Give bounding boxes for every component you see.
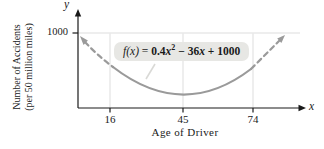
y-axis-title-line2: (per 50 million miles) xyxy=(23,12,35,122)
curve-solid-middle xyxy=(113,67,251,95)
function-formula-box: f(x) = 0.4x2 − 36x + 1000 xyxy=(114,42,249,61)
y-tick-label-1000: 1000 xyxy=(36,26,68,37)
x-axis-arrow xyxy=(299,105,307,111)
y-axis-title: Number of Accidents (per 50 million mile… xyxy=(11,12,39,122)
formula-equals: = xyxy=(139,45,151,57)
accidents-vs-age-chart: y x Number of Accidents (per 50 million … xyxy=(0,0,324,149)
y-axis-letter: y xyxy=(64,0,69,10)
y-axis-arrow xyxy=(75,9,81,17)
y-axis-title-line1: Number of Accidents xyxy=(11,12,23,122)
x-axis-letter: x xyxy=(309,100,314,112)
x-tick-label-45: 45 xyxy=(168,113,198,125)
x-axis-title: Age of Driver xyxy=(118,126,252,138)
curve-dashed-right xyxy=(251,40,280,69)
formula-coefficient: 0.4 xyxy=(151,45,165,57)
formula-callout-line xyxy=(146,64,155,79)
curve-dashed-left xyxy=(85,42,113,67)
x-tick-label-16: 16 xyxy=(95,113,125,125)
formula-constant: + 1000 xyxy=(205,45,240,57)
formula-middle-term: − 36 xyxy=(175,45,199,57)
x-tick-label-74: 74 xyxy=(238,113,268,125)
formula-fx: f(x) xyxy=(123,45,139,57)
